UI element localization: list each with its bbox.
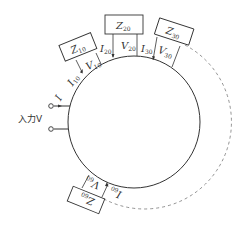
input-terminals: I 入力V [18,92,70,131]
element-z10: Z10 V10 I10 [59,33,103,89]
input-current-label: I [52,92,65,103]
main-ring [68,56,200,188]
dashed-continuation-arc [104,45,231,209]
voltage-label-v20: V20 [121,40,136,52]
ring-circuit-diagram: I 入力V Z10 V10 I10 Z20 V20 I20 Z30 V30 I3… [0,0,238,231]
input-terminal-bottom[interactable] [49,127,54,132]
input-terminal-top[interactable] [49,104,54,109]
element-z30: Z30 V30 I30 [140,18,194,67]
current-label-i30: I30 [140,43,153,55]
input-current-arrow-icon [58,105,62,108]
element-z60: Z60 V60 I60 [67,175,124,214]
current-label-i20: I20 [99,43,112,55]
input-voltage-label: 入力V [18,113,43,124]
current-label-i60: I60 [108,185,124,201]
diagram-svg: I 入力V Z10 V10 I10 Z20 V20 I20 Z30 V30 I3… [0,0,238,231]
voltage-label-v60: V60 [83,175,101,192]
element-z20: Z20 V20 I20 [99,15,143,58]
voltage-label-v30: V30 [157,44,175,60]
current-arrow-i20-icon [112,54,115,58]
